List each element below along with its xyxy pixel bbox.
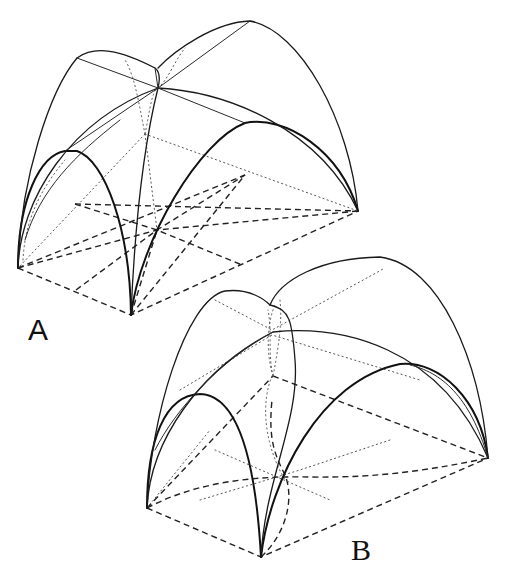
vault-a: A <box>18 21 358 346</box>
vault-diagram: A <box>0 0 505 575</box>
vault-b-ground-plan <box>147 376 488 557</box>
vault-a-arches <box>18 21 358 315</box>
vault-b-arches <box>147 257 488 557</box>
vault-a-ground-plan <box>18 175 358 315</box>
vault-b: B <box>147 257 488 566</box>
label-a: A <box>28 313 48 346</box>
label-b: B <box>351 533 371 566</box>
